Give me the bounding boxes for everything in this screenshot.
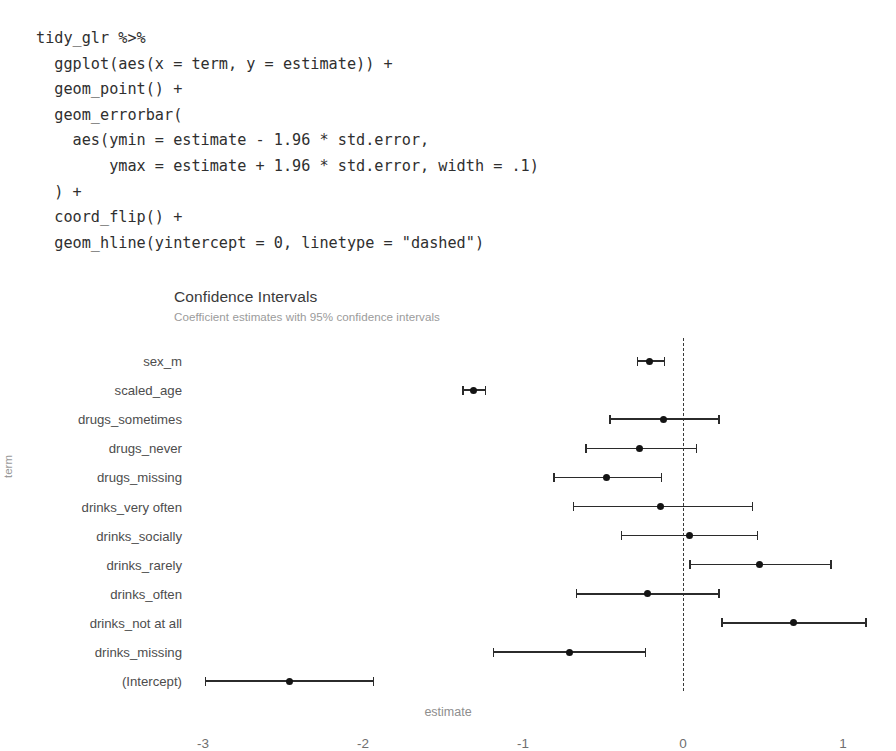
y-tick-drinks-socially: drinks_socially <box>96 528 182 543</box>
plot-panel: sex_mscaled_agedrugs_sometimesdrugs_neve… <box>0 338 896 678</box>
ci-cap-high <box>645 648 647 657</box>
estimate-point <box>646 358 653 365</box>
estimate-point <box>603 474 610 481</box>
ci-cap-high <box>757 531 759 540</box>
ci-cap-high <box>718 415 720 424</box>
plot-subtitle: Coefficient estimates with 95% confidenc… <box>174 310 440 323</box>
ci-cap-low <box>621 531 623 540</box>
zero-reference-line <box>683 338 684 691</box>
x-tick-2: -1 <box>517 736 529 751</box>
ci-cap-low <box>721 618 723 627</box>
ci-cap-high <box>718 589 720 598</box>
y-tick--intercept-: (Intercept) <box>122 674 182 689</box>
ci-cap-high <box>696 444 698 453</box>
ci-cap-high <box>373 677 375 686</box>
ci-cap-high <box>664 357 666 366</box>
y-tick-drugs-never: drugs_never <box>109 441 182 456</box>
ci-cap-high <box>752 502 754 511</box>
ci-cap-low <box>689 560 691 569</box>
estimate-point <box>644 590 651 597</box>
y-tick-drinks-often: drinks_often <box>110 586 182 601</box>
estimate-point <box>790 619 797 626</box>
y-tick-sex-m: sex_m <box>143 354 182 369</box>
ci-cap-low <box>553 473 555 482</box>
ci-cap-high <box>865 618 867 627</box>
ci-cap-low <box>585 444 587 453</box>
y-tick-scaled-age: scaled_age <box>115 383 182 398</box>
ci-cap-low <box>637 357 639 366</box>
estimate-point <box>566 649 573 656</box>
ci-cap-low <box>576 589 578 598</box>
y-tick-drugs-sometimes: drugs_sometimes <box>78 412 182 427</box>
confidence-interval-plot: Confidence Intervals Coefficient estimat… <box>0 282 896 751</box>
estimate-point <box>286 678 293 685</box>
x-tick-3: 0 <box>679 736 687 751</box>
estimate-point <box>657 503 664 510</box>
estimate-point <box>660 416 667 423</box>
ci-cap-high <box>830 560 832 569</box>
ci-cap-low <box>205 677 207 686</box>
ci-cap-low <box>462 386 464 395</box>
estimate-point <box>470 387 477 394</box>
ci-cap-low <box>493 648 495 657</box>
estimate-point <box>636 445 643 452</box>
estimate-point <box>756 561 763 568</box>
plot-title: Confidence Intervals <box>174 288 317 306</box>
y-tick-drinks-rarely: drinks_rarely <box>107 557 183 572</box>
x-axis-label: estimate <box>0 705 896 719</box>
x-tick-4: 1 <box>839 736 847 751</box>
x-tick-0: -3 <box>197 736 209 751</box>
estimate-point <box>686 532 693 539</box>
ci-cap-high <box>485 386 487 395</box>
r-code-snippet[interactable]: tidy_glr %>% ggplot(aes(x = term, y = es… <box>0 0 896 256</box>
y-tick-drinks-missing: drinks_missing <box>95 645 182 660</box>
y-tick-drinks-very-often: drinks_very often <box>82 499 182 514</box>
ci-cap-high <box>661 473 663 482</box>
ci-cap-low <box>609 415 611 424</box>
y-tick-drinks-not-at-all: drinks_not at all <box>90 615 182 630</box>
code-block: g tidy_glr %>% ggplot(aes(x = term, y = … <box>0 0 896 256</box>
ci-cap-low <box>573 502 575 511</box>
y-tick-drugs-missing: drugs_missing <box>97 470 182 485</box>
x-tick-1: -2 <box>357 736 369 751</box>
